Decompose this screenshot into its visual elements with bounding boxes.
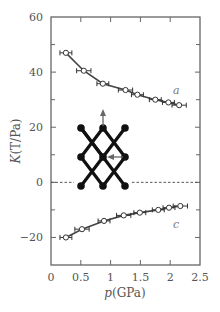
x-tick-label: 2.5 (191, 271, 209, 284)
series-label-a: a (173, 84, 180, 97)
chart: 00.511.522.5−200204060 ac p(GPa) K(T/Pa) (0, 0, 220, 312)
series-a (60, 50, 186, 108)
data-point (166, 205, 171, 210)
data-point (121, 213, 126, 218)
x-axis-label: p(GPa) (104, 286, 145, 300)
series-c (60, 203, 188, 240)
x-tick-label: 0.5 (72, 271, 90, 284)
axis-ticks: 00.511.522.5−200204060 (20, 11, 209, 284)
lattice-node (99, 182, 107, 190)
x-tick-label: 1 (107, 271, 114, 284)
lattice-node (77, 124, 85, 132)
arrow-left-icon (107, 154, 114, 160)
lattice-node (77, 153, 85, 161)
data-point (63, 50, 68, 55)
data-point (137, 210, 142, 215)
lattice-node (121, 124, 129, 132)
lattice-node (121, 182, 129, 190)
data-point (177, 103, 182, 108)
lattice-inset-diagram (74, 109, 132, 192)
data-point (100, 81, 105, 86)
y-tick-label: 60 (29, 11, 43, 24)
data-point (156, 207, 161, 212)
y-tick-label: 20 (29, 121, 43, 134)
data-point (123, 87, 128, 92)
data-point (81, 68, 86, 73)
x-tick-label: 0 (48, 271, 55, 284)
data-series: ac (60, 50, 188, 240)
data-point (166, 100, 171, 105)
series-label-c: c (173, 218, 179, 231)
arrow-up-icon (100, 109, 106, 116)
x-tick-label: 2 (167, 271, 174, 284)
lattice-node (77, 182, 85, 190)
y-tick-label: −20 (20, 231, 43, 244)
data-point (135, 92, 140, 97)
y-axis-label: K(T/Pa) (9, 118, 23, 164)
y-tick-label: 0 (36, 176, 43, 189)
data-point (178, 203, 183, 208)
y-tick-label: 40 (29, 66, 43, 79)
data-point (63, 235, 68, 240)
lattice-node (99, 153, 107, 161)
data-point (153, 97, 158, 102)
x-tick-label: 1.5 (132, 271, 150, 284)
data-point (79, 227, 84, 232)
data-point (101, 218, 106, 223)
